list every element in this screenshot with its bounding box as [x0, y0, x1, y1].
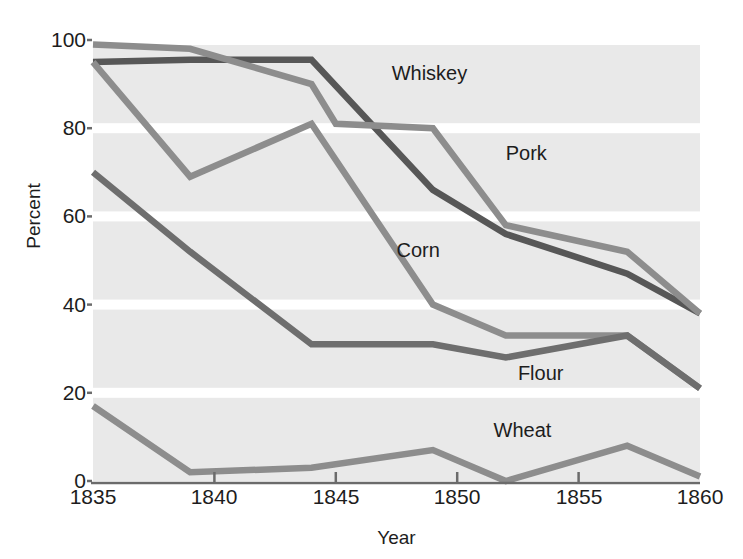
- x-tick-label: 1840: [174, 486, 254, 507]
- y-tick-label: 20: [34, 382, 86, 403]
- series-label-wheat: Wheat: [494, 419, 552, 442]
- x-tick-label: 1835: [53, 486, 133, 507]
- series-label-flour: Flour: [518, 362, 564, 385]
- y-axis-tick-labels: 100 80 60 40 20 0: [0, 0, 86, 559]
- y-tick-label: 40: [34, 294, 86, 315]
- line-chart: 100 80 60 40 20 0 1835 1840 1845 1850 18…: [0, 0, 743, 559]
- x-tick-label: 1860: [660, 486, 740, 507]
- gridline: [93, 388, 700, 398]
- x-axis-title: Year: [93, 527, 700, 549]
- plot-area: [0, 0, 743, 559]
- gridline: [93, 211, 700, 221]
- series-label-pork: Pork: [506, 142, 547, 165]
- x-tick-label: 1845: [296, 486, 376, 507]
- x-tick-label: 1855: [539, 486, 619, 507]
- y-tick-label: 80: [34, 117, 86, 138]
- y-axis-title: Percent: [23, 156, 45, 276]
- gridline: [93, 35, 700, 45]
- gridline: [93, 300, 700, 310]
- y-tick-label: 100: [34, 29, 86, 50]
- x-tick-label: 1850: [417, 486, 497, 507]
- series-label-whiskey: Whiskey: [392, 62, 468, 85]
- series-label-corn: Corn: [397, 239, 440, 262]
